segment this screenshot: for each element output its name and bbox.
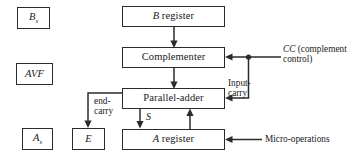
input-carry-label: Input-carry: [228, 78, 251, 99]
end-carry-label: end-carry: [94, 96, 113, 117]
wire-complementer-to-adder: [170, 67, 177, 89]
end-carry-line1: end-: [94, 96, 111, 106]
e-box: E: [72, 128, 105, 150]
input-carry-line1: Input-: [228, 78, 251, 88]
complementer-label: Complementer: [142, 52, 206, 63]
wire-cc-to-complementer: [225, 53, 281, 60]
avf-label: AVF: [25, 69, 44, 80]
e-label: E: [85, 134, 92, 145]
micro-operations-label: Micro-operations: [265, 134, 330, 144]
micro-operations-text: Micro-operations: [265, 134, 330, 144]
end-carry-line2: carry: [94, 106, 113, 116]
b-register-italic: B: [153, 11, 162, 22]
input-carry-line2: carry: [228, 88, 247, 98]
wire-aregister-to-adder: [186, 109, 193, 130]
wire-sum-to-aregister: [136, 108, 143, 129]
avf-box: AVF: [16, 63, 53, 85]
cc-label: CC (complementcontrol): [283, 44, 347, 65]
sum-label: S: [146, 111, 151, 122]
sum-label-text: S: [146, 111, 151, 122]
cc-label-italic: CC: [283, 44, 295, 54]
a-sign-box: As: [22, 128, 53, 150]
parallel-adder-box: Parallel-adder: [122, 88, 225, 109]
wire-bregister-to-complementer: [170, 26, 177, 48]
b-register-label: register: [162, 11, 194, 22]
complementer-box: Complementer: [122, 47, 225, 68]
a-sign-label: As: [33, 133, 42, 146]
cc-label-rest: (complement: [295, 44, 346, 54]
b-sign-box: Bs: [17, 7, 50, 29]
block-diagram: Bs AVF As E Bregister Complementer Paral…: [0, 0, 360, 157]
a-register-italic: A: [153, 134, 162, 145]
b-register-box: Bregister: [122, 6, 225, 27]
cc-label-line2: control): [283, 54, 312, 64]
wire-microops-to-aregister: [225, 136, 262, 143]
b-sign-label: Bs: [29, 12, 38, 25]
a-register-label: register: [162, 134, 194, 145]
a-register-box: Aregister: [122, 129, 225, 150]
parallel-adder-label: Parallel-adder: [143, 93, 203, 104]
